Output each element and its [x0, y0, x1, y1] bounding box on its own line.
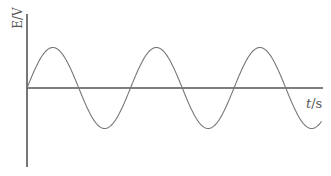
y-axis-label: E/V — [11, 7, 25, 29]
emf-time-graph: E/V t/s — [0, 0, 331, 176]
x-axis-label: t/s — [306, 96, 322, 111]
x-axis-label-unit: /s — [311, 96, 322, 111]
